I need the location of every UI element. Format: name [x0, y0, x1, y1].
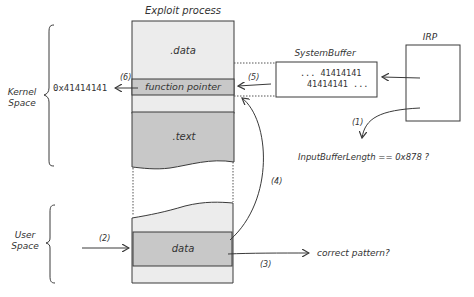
system-buffer-line1: ... 41414141 — [300, 68, 361, 78]
step4-label: (4) — [271, 177, 282, 186]
diagram-title: Exploit process — [145, 5, 221, 16]
step6-label: (6) — [120, 73, 131, 82]
user-space-label-line1: User — [15, 230, 37, 240]
system-buffer-line2: 41414141 ... — [307, 79, 368, 89]
step5-label: (5) — [248, 73, 259, 82]
step2-label: (2) — [99, 234, 110, 243]
user-data-label: data — [172, 243, 195, 254]
step3-arrow — [228, 253, 309, 254]
text-section-label: .text — [172, 131, 196, 142]
step3-label: (3) — [260, 260, 271, 269]
user-space-brace — [46, 205, 55, 283]
kernel-space-label-line1: Kernel — [8, 87, 37, 97]
pattern-check-text: correct pattern? — [317, 248, 390, 258]
function-pointer-label: function pointer — [145, 81, 222, 92]
length-check-text: InputBufferLength == 0x878 ? — [298, 152, 430, 162]
system-buffer-title: SystemBuffer — [294, 48, 356, 58]
data-section-label: .data — [170, 45, 196, 56]
step4-arrow — [230, 98, 263, 240]
irp-title: IRP — [423, 32, 438, 42]
user-space-label-line2: Space — [11, 241, 39, 251]
irp-box — [406, 45, 460, 121]
overwritten-value: 0x41414141 — [53, 83, 107, 93]
step5-arrow — [238, 84, 271, 86]
kernel-memory-block — [132, 21, 234, 169]
step1-label: (1) — [352, 118, 363, 127]
kernel-space-label-line2: Space — [8, 98, 36, 108]
exploit-diagram: Exploit process .data function pointer .… — [0, 0, 474, 297]
kernel-space-brace — [44, 25, 54, 166]
